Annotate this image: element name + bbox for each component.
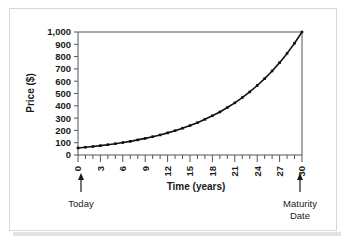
y-tick-label: 400 (55, 100, 71, 111)
x-axis-ticks (78, 155, 302, 162)
data-point-marker (204, 118, 207, 121)
today-arrow-head (78, 173, 84, 180)
x-tick-label: 3 (95, 166, 106, 171)
data-point-marker (136, 139, 139, 142)
data-point-marker (196, 121, 199, 124)
y-tick-label: 200 (55, 125, 71, 136)
x-tick-label: 21 (229, 165, 240, 176)
y-tick-label: 600 (55, 76, 71, 87)
y-tick-label: 100 (55, 137, 71, 148)
today-label: Today (68, 198, 94, 209)
data-point-marker (226, 106, 229, 109)
x-axis-tick-labels: 036912151821242730 (72, 165, 307, 176)
y-tick-label: 0 (66, 149, 71, 160)
bond-price-chart: 01002003004005006007008009001,000 036912… (0, 0, 348, 250)
data-point-marker (99, 144, 102, 147)
data-point-marker (122, 141, 125, 144)
y-tick-label: 700 (55, 63, 71, 74)
data-point-marker (181, 127, 184, 130)
y-tick-label: 300 (55, 113, 71, 124)
data-point-marker (189, 124, 192, 127)
data-point-marker (234, 102, 237, 105)
data-point-marker (248, 91, 251, 94)
plot-frame (78, 32, 302, 155)
data-point-marker (278, 61, 281, 64)
annotation-maturity: Maturity Date (283, 173, 317, 221)
data-point-marker (114, 142, 117, 145)
data-point-marker (286, 52, 289, 55)
x-axis-title: Time (years) (167, 181, 226, 192)
data-point-marker (92, 145, 95, 148)
data-point-marker (129, 140, 132, 143)
data-point-marker (144, 137, 147, 140)
data-series-line (78, 32, 302, 148)
y-tick-label: 800 (55, 51, 71, 62)
data-point-marker (84, 146, 87, 149)
x-tick-label: 24 (252, 165, 263, 176)
y-tick-label: 500 (55, 88, 71, 99)
data-point-marker (301, 31, 304, 34)
data-point-marker (174, 129, 177, 132)
chart-svg: 01002003004005006007008009001,000 036912… (0, 0, 348, 250)
y-axis-ticks (74, 32, 78, 155)
maturity-label-line-2: Date (290, 210, 310, 221)
data-point-marker (77, 147, 80, 150)
data-point-marker (159, 134, 162, 137)
data-point-marker (151, 135, 154, 138)
data-point-marker (263, 77, 266, 80)
data-point-marker (166, 132, 169, 135)
data-point-marker (241, 96, 244, 99)
data-point-marker (256, 84, 259, 87)
x-tick-label: 9 (140, 166, 151, 171)
x-tick-label: 0 (72, 166, 83, 171)
x-tick-label: 6 (117, 166, 128, 171)
data-point-marker (211, 114, 214, 117)
x-tick-label: 15 (184, 165, 195, 176)
y-tick-label: 1,000 (47, 26, 71, 37)
data-point-marker (107, 143, 110, 146)
x-tick-label: 18 (207, 166, 218, 177)
data-point-marker (293, 42, 296, 45)
data-point-marker (271, 70, 274, 73)
x-tick-label: 30 (296, 166, 307, 177)
data-point-marker (219, 111, 222, 114)
data-point-markers (77, 31, 304, 150)
x-tick-label: 27 (274, 166, 285, 177)
y-tick-label: 900 (55, 39, 71, 50)
annotation-today: Today (68, 173, 94, 209)
x-tick-label: 12 (162, 166, 173, 177)
maturity-label-line-1: Maturity (283, 198, 317, 209)
y-axis-tick-labels: 01002003004005006007008009001,000 (47, 26, 71, 160)
y-axis-title: Price ($) (25, 73, 36, 112)
